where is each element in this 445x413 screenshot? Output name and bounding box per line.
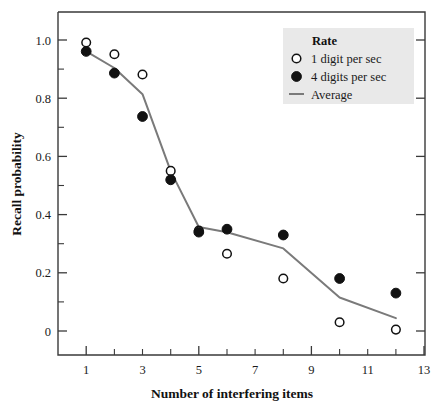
data-point xyxy=(138,70,147,79)
data-point xyxy=(166,175,176,185)
y-tick-label: 0 xyxy=(45,325,51,339)
data-point xyxy=(166,167,175,176)
legend-filled-circle-icon xyxy=(292,72,302,82)
data-point xyxy=(110,50,119,59)
y-axis-right-ticks xyxy=(416,40,425,331)
x-tick-label: 9 xyxy=(308,363,314,377)
data-point xyxy=(138,112,148,122)
legend-label: 1 digit per sec xyxy=(311,52,382,66)
x-axis-title: Number of interfering items xyxy=(151,386,313,401)
x-tick-label: 11 xyxy=(362,363,374,377)
data-point xyxy=(392,325,401,334)
y-tick-label: 0.8 xyxy=(35,92,51,106)
scatter-plot: 1.0 0.8 0.6 0.4 0.2 0 1 3 5 xyxy=(0,0,445,413)
x-tick-label: 13 xyxy=(418,363,431,377)
data-point xyxy=(194,227,204,237)
y-tick-label: 0.2 xyxy=(35,266,51,280)
data-point xyxy=(110,68,120,78)
x-tick-label: 5 xyxy=(196,363,202,377)
y-axis-title: Recall probability xyxy=(9,132,24,236)
data-point xyxy=(391,288,401,298)
y-tick-label: 1.0 xyxy=(35,34,51,48)
data-point xyxy=(82,38,91,47)
y-tick-label: 0.4 xyxy=(35,208,51,222)
data-point xyxy=(278,230,288,240)
data-point xyxy=(279,274,288,283)
legend-open-circle-icon xyxy=(292,54,301,63)
x-tick-label: 1 xyxy=(83,363,89,377)
chart-figure: 1.0 0.8 0.6 0.4 0.2 0 1 3 5 xyxy=(0,0,445,413)
x-axis-ticks xyxy=(86,346,424,355)
data-point xyxy=(81,47,91,57)
data-point xyxy=(335,274,345,284)
x-tick-label: 7 xyxy=(252,363,258,377)
x-tick-label: 3 xyxy=(139,363,145,377)
y-axis-ticks xyxy=(58,40,67,331)
y-tick-label: 0.6 xyxy=(35,150,51,164)
legend-label: 4 digits per sec xyxy=(311,70,387,84)
x-tick-labels: 1 3 5 7 9 11 13 xyxy=(83,363,430,377)
data-point xyxy=(335,318,344,327)
data-point xyxy=(222,224,232,234)
y-tick-labels: 1.0 0.8 0.6 0.4 0.2 0 xyxy=(35,34,51,339)
data-point xyxy=(223,250,232,259)
legend-label: Average xyxy=(311,88,353,102)
legend-title: Rate xyxy=(312,34,337,48)
